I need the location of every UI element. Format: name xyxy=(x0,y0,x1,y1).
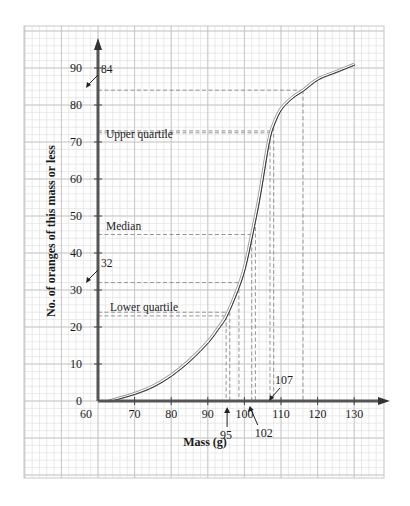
y-tick-label: 80 xyxy=(70,98,82,112)
x-tick-label: 70 xyxy=(129,407,141,421)
y-tick-label: 90 xyxy=(70,61,82,75)
value-95-label: 95 xyxy=(220,428,232,442)
value-107-label: 107 xyxy=(275,373,293,387)
x-tick-label: 130 xyxy=(345,407,363,421)
y-tick-label: 60 xyxy=(70,172,82,186)
x-tick-label: 110 xyxy=(272,407,290,421)
value-102-label: 102 xyxy=(255,426,273,440)
x-tick-label: 120 xyxy=(309,407,327,421)
value-32-label: 32 xyxy=(101,257,113,269)
upper-quartile-label: Upper quartile xyxy=(106,128,173,141)
cumulative-frequency-chart: 607080901001101201300102030405060708090M… xyxy=(0,0,410,506)
y-tick-label: 0 xyxy=(76,394,82,408)
median-label: Median xyxy=(106,220,141,232)
value-84-label: 84 xyxy=(101,63,113,75)
y-tick-label: 30 xyxy=(70,283,82,297)
y-axis-title: No. of oranges of this mass or less xyxy=(44,145,58,317)
y-tick-label: 70 xyxy=(70,135,82,149)
y-tick-label: 20 xyxy=(70,320,82,334)
x-tick-label: 80 xyxy=(165,407,177,421)
y-tick-label: 50 xyxy=(70,209,82,223)
y-tick-label: 40 xyxy=(70,246,82,260)
x-tick-label: 90 xyxy=(202,407,214,421)
x-tick-label: 60 xyxy=(80,407,92,421)
lower-quartile-label: Lower quartile xyxy=(110,301,178,314)
y-tick-label: 10 xyxy=(70,357,82,371)
